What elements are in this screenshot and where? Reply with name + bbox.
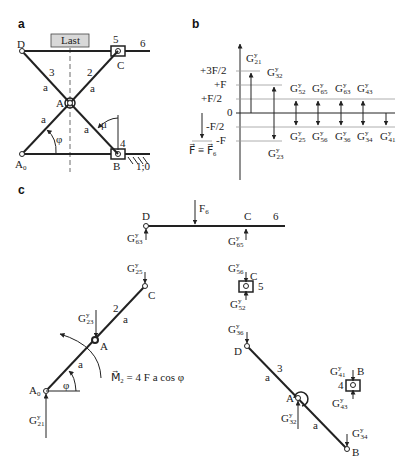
svg-text:A: A xyxy=(56,97,64,109)
svg-text:φ: φ xyxy=(56,133,62,145)
svg-text:Gy43: Gy43 xyxy=(332,396,348,411)
svg-text:μ: μ xyxy=(101,118,107,130)
svg-text:Gy65: Gy65 xyxy=(312,81,328,96)
svg-text:a: a xyxy=(313,419,318,431)
link-3-lower xyxy=(70,103,118,154)
svg-text:A0: A0 xyxy=(29,384,41,398)
panel-a-label: a xyxy=(18,17,25,31)
svg-text:Gy32: Gy32 xyxy=(281,411,297,426)
svg-text:φ: φ xyxy=(63,379,69,391)
force-label: F⃗ ≡ F⃗₆ xyxy=(189,143,217,156)
svg-text:5: 5 xyxy=(113,33,119,45)
svg-text:+F: +F xyxy=(214,78,226,90)
svg-text:Gy23: Gy23 xyxy=(268,146,284,161)
svg-text:Gy41: Gy41 xyxy=(380,129,396,144)
svg-text:Gy34: Gy34 xyxy=(357,129,373,144)
svg-text:Gy63: Gy63 xyxy=(335,81,351,96)
svg-text:D: D xyxy=(234,345,242,357)
svg-text:Gy36: Gy36 xyxy=(335,129,351,144)
svg-text:Gy25: Gy25 xyxy=(127,261,143,276)
svg-text:B: B xyxy=(113,160,120,172)
link-3 xyxy=(22,51,70,103)
svg-text:3: 3 xyxy=(277,362,283,374)
svg-text:Gy65: Gy65 xyxy=(228,234,244,249)
panel-a: a Last D 5 6 xyxy=(15,17,151,172)
svg-text:Gy23: Gy23 xyxy=(78,311,94,326)
panel-c-label: c xyxy=(18,183,25,197)
svg-text:+F/2: +F/2 xyxy=(201,92,222,104)
svg-text:Gy41: Gy41 xyxy=(330,364,346,379)
svg-text:Gy21: Gy21 xyxy=(29,413,45,428)
panel-b: b +3F/2 +F +F/2 0 -F/2 -F Gy21 Gy32 xyxy=(189,17,396,180)
svg-text:Gy52: Gy52 xyxy=(290,81,306,96)
svg-text:Gy63: Gy63 xyxy=(127,231,143,246)
svg-text:B: B xyxy=(352,446,359,458)
load-box-label: Last xyxy=(61,34,80,46)
joint-A xyxy=(68,101,73,106)
svg-text:a: a xyxy=(84,123,89,135)
panel-c: c F6 D C 6 Gy63 Gy65 Gy56 C 5 Gy52 Gy25 … xyxy=(18,183,368,458)
svg-text:Gy34: Gy34 xyxy=(352,426,368,441)
svg-text:a: a xyxy=(265,371,270,383)
svg-text:-F: -F xyxy=(216,134,226,146)
link-2-upper xyxy=(70,51,118,103)
svg-text:-F/2: -F/2 xyxy=(206,120,224,132)
svg-text:a: a xyxy=(123,313,128,325)
svg-text:2: 2 xyxy=(113,302,119,314)
svg-text:6: 6 xyxy=(140,37,146,49)
svg-text:4: 4 xyxy=(120,137,126,149)
svg-text:1;0: 1;0 xyxy=(136,160,151,172)
svg-text:A: A xyxy=(286,392,294,404)
svg-text:D: D xyxy=(142,210,150,222)
svg-text:5: 5 xyxy=(258,280,264,292)
svg-text:A: A xyxy=(100,340,108,352)
svg-text:Gy43: Gy43 xyxy=(357,81,373,96)
svg-text:2: 2 xyxy=(87,66,93,78)
svg-text:C: C xyxy=(250,270,257,282)
svg-text:C: C xyxy=(117,59,124,71)
svg-text:a: a xyxy=(90,82,95,94)
svg-text:6: 6 xyxy=(273,210,279,222)
figure: a Last D 5 6 xyxy=(0,0,413,474)
svg-text:Gy32: Gy32 xyxy=(267,65,283,80)
svg-text:4: 4 xyxy=(338,379,344,391)
svg-text:A0: A0 xyxy=(15,158,27,172)
svg-text:a: a xyxy=(78,358,83,370)
svg-text:Gy52: Gy52 xyxy=(230,297,246,312)
svg-text:Gy36: Gy36 xyxy=(228,322,244,337)
moment-label: M⃗₂ = 4 F a cos φ xyxy=(111,370,184,383)
svg-text:a: a xyxy=(43,81,48,93)
svg-text:F6: F6 xyxy=(199,202,209,216)
svg-text:B: B xyxy=(357,365,364,377)
svg-text:C: C xyxy=(244,210,251,222)
svg-text:Gy21: Gy21 xyxy=(246,51,262,66)
svg-text:0: 0 xyxy=(227,106,233,118)
svg-text:Gy56: Gy56 xyxy=(228,261,244,276)
svg-text:a: a xyxy=(41,113,46,125)
link-2-lower xyxy=(22,103,70,154)
panel-b-label: b xyxy=(192,17,199,31)
svg-text:3: 3 xyxy=(49,66,55,78)
joint-A0 xyxy=(20,152,25,157)
svg-text:Gy56: Gy56 xyxy=(312,129,328,144)
svg-text:Gy25: Gy25 xyxy=(290,129,306,144)
svg-text:C: C xyxy=(148,289,155,301)
svg-text:+3F/2: +3F/2 xyxy=(200,64,226,76)
svg-text:D: D xyxy=(17,38,25,50)
